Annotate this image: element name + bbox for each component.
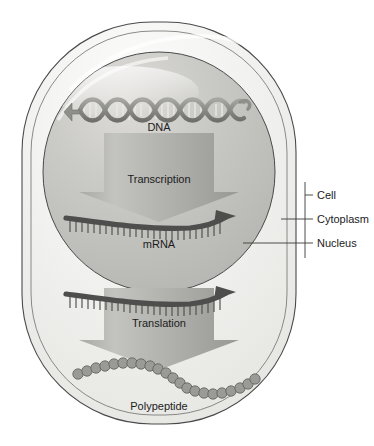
callout-label-nucleus: Nucleus [317, 237, 357, 249]
central-dogma-diagram: Transcription Translation [0, 0, 374, 446]
translation-label: Translation [132, 317, 186, 329]
polypeptide-label: Polypeptide [130, 400, 188, 412]
callout-label-cell: Cell [317, 189, 336, 201]
callout-label-cytoplasm: Cytoplasm [317, 213, 369, 225]
dna-label: DNA [147, 121, 171, 133]
mrna-label: mRNA [143, 238, 176, 250]
diagram-canvas: Transcription Translation [0, 0, 374, 446]
transcription-label: Transcription [127, 173, 190, 185]
